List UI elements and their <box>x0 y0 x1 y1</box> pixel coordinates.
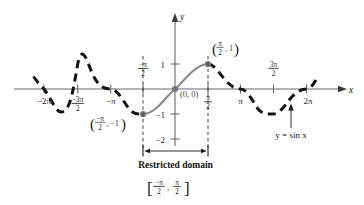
interval-left-den: 2 <box>157 188 161 196</box>
x-axis-arrow <box>338 86 347 92</box>
min-point-num: −π <box>96 115 104 123</box>
x-tick-label-pi: π <box>238 96 243 106</box>
max-point-comma: , <box>226 43 228 53</box>
max-point-paren-close: ) <box>234 41 239 58</box>
min-point-paren-open: ( <box>90 116 95 133</box>
sine-function-plot: x y −2π −3π 2 −π −π 2 π 2 π 3π 2 2π 1 <box>0 0 364 205</box>
y-axis-label: y <box>179 12 185 22</box>
x-tick-label-neg-3pi-2-den: 2 <box>76 105 80 113</box>
x-tick-label-3pi-2-den: 2 <box>272 70 276 78</box>
min-point-paren-close: ) <box>121 116 126 133</box>
restricted-domain-caption: Restricted domain <box>138 160 213 170</box>
x-tick-label-neg-3pi-2: −3π 2 <box>72 96 84 113</box>
interval-right-den: 2 <box>175 188 179 196</box>
x-tick-label-3pi-2-num: 3π <box>270 61 278 69</box>
min-point-den: 2 <box>98 124 102 132</box>
max-point-paren-open: ( <box>212 41 217 58</box>
curve-pointer-head <box>288 104 294 111</box>
y-tick-label-neg-2: −2 <box>155 135 165 145</box>
x-tick-label-neg-pi: −π <box>106 96 116 106</box>
min-point-second: −1 <box>110 118 119 128</box>
x-tick-label-2pi: 2π <box>303 96 313 106</box>
min-point-comma: , <box>107 118 109 128</box>
max-point-second: 1 <box>229 43 233 53</box>
curve-equation-label: y = sin x <box>275 130 307 140</box>
curve-label-pointer <box>288 104 294 129</box>
domain-bar-arrow-left <box>145 149 151 154</box>
interval-right-num: π <box>175 179 179 187</box>
interval-bracket-close: ] <box>184 179 190 198</box>
interval-comma: , <box>167 182 169 192</box>
x-tick-label-neg-pi-2-num: −π <box>139 61 147 69</box>
x-tick-label-neg-3pi-2-num: −3π <box>72 96 84 104</box>
min-point-label: ( −π 2 , −1 ) <box>90 115 126 134</box>
x-axis-label: x <box>348 85 354 95</box>
axes-group <box>14 13 347 146</box>
restricted-domain-interval: [ −π 2 , π 2 ] <box>147 179 190 199</box>
origin-point-dot <box>172 86 178 92</box>
x-tick-label-neg-2pi: −2π <box>37 96 52 106</box>
x-tick-label-neg-pi-2: −π 2 <box>138 61 149 78</box>
x-tick-label-pi-2-den: 2 <box>206 103 210 111</box>
max-point-den: 2 <box>218 49 222 57</box>
x-tick-label-neg-pi-2-den: 2 <box>141 70 145 78</box>
max-point-label: ( π 2 1 ) , <box>212 40 239 59</box>
restricted-domain-bar <box>143 146 208 157</box>
y-axis-arrow <box>172 13 178 22</box>
y-tick-label-neg-1: −1 <box>155 110 165 120</box>
sine-graph-figure: x y −2π −3π 2 −π −π 2 π 2 π 3π 2 2π 1 <box>0 0 364 205</box>
y-tick-label-1: 1 <box>161 60 166 70</box>
x-tick-label-pi-2: π 2 <box>204 94 212 111</box>
x-tick-label-pi-2-num: π <box>206 94 210 102</box>
interval-left-num: −π <box>155 179 163 187</box>
interval-bracket-open: [ <box>147 179 153 198</box>
origin-point-label: (0, 0) <box>180 89 199 99</box>
max-point-num: π <box>218 40 222 48</box>
x-tick-label-3pi-2: 3π 2 <box>268 61 278 78</box>
domain-bar-arrow-right <box>201 149 207 154</box>
